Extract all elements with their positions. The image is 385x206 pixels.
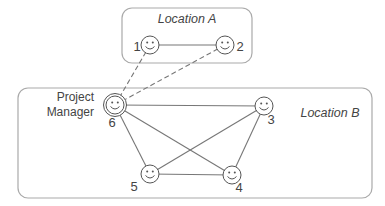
person-node-2: 2 <box>216 36 244 54</box>
project-manager-label-line1: Project <box>57 90 95 104</box>
team-network-diagram: Location ALocation B 123456 Project Mana… <box>0 0 385 206</box>
node-number-label: 2 <box>236 39 243 54</box>
edge-5-3 <box>150 106 264 174</box>
edge-6-3 <box>115 105 264 106</box>
person-node-5: 5 <box>130 165 159 194</box>
person-node-1: 1 <box>133 36 159 54</box>
person-node-3: 3 <box>255 97 275 127</box>
smiley-face-icon <box>141 165 159 183</box>
edge-2-6 <box>115 45 225 105</box>
person-node-6: 6 <box>104 94 127 131</box>
location-label-a: Location A <box>158 12 217 26</box>
smiley-face-icon <box>216 36 234 54</box>
connection-edges <box>115 45 264 175</box>
node-number-label: 4 <box>235 180 242 195</box>
text-labels: Project Manager <box>47 90 95 119</box>
smiley-face-icon <box>141 36 159 54</box>
node-number-label: 5 <box>130 179 137 194</box>
edge-5-4 <box>150 174 232 175</box>
node-number-label: 3 <box>267 112 274 127</box>
node-number-label: 1 <box>133 39 140 54</box>
person-node-4: 4 <box>223 166 243 195</box>
project-manager-label-line2: Manager <box>47 105 94 119</box>
edge-3-4 <box>232 106 264 175</box>
node-number-label: 6 <box>108 115 115 130</box>
location-label-b: Location B <box>300 106 359 120</box>
smiley-face-icon <box>106 96 124 114</box>
